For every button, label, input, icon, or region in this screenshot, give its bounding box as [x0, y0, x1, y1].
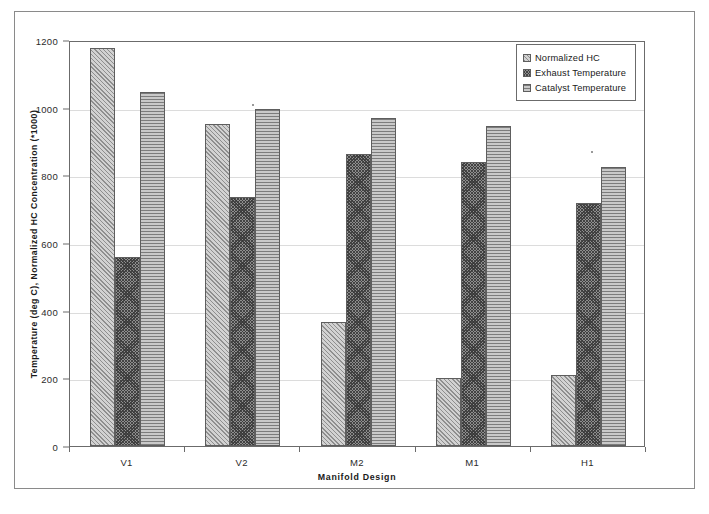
scan-artifact: [591, 151, 593, 153]
bar-v1-series-1: [90, 48, 115, 446]
x-axis-tick-label-v2: V2: [236, 457, 248, 468]
plot-area: [69, 41, 645, 447]
x-axis-tick-label-m1: M1: [465, 457, 479, 468]
bar-m1-series-2: [461, 162, 486, 446]
x-axis-tick-label-h1: H1: [581, 457, 594, 468]
bar-v1-series-3: [140, 92, 165, 446]
x-axis-tick-label-v1: V1: [120, 457, 132, 468]
x-axis-title: Manifold Design: [69, 472, 645, 482]
x-axis-tick-label-m2: M2: [350, 457, 364, 468]
legend-item-1[interactable]: Normalized HC: [523, 50, 626, 65]
bar-v1-series-2: [115, 257, 140, 446]
legend-item-3[interactable]: Catalyst Temperature: [523, 80, 626, 95]
bar-v2-series-1: [205, 124, 230, 446]
y-axis-tick-label: 200: [41, 374, 58, 385]
legend-item-label: Exhaust Temperature: [535, 68, 626, 78]
scan-artifact: [252, 104, 254, 106]
y-axis-ticks: 020040060080010001200: [0, 41, 69, 447]
bar-m1-series-3: [486, 126, 511, 446]
y-axis-tick-label: 1200: [36, 36, 58, 47]
x-axis-tick-mark: [530, 447, 531, 452]
y-axis-tick-label: 1000: [36, 103, 58, 114]
bar-h1-series-2: [576, 203, 601, 446]
y-axis-tick-label: 400: [41, 306, 58, 317]
x-axis-tick-mark: [69, 447, 70, 452]
bar-m2-series-1: [321, 322, 346, 446]
bar-v2-series-2: [230, 197, 255, 446]
x-axis-tick-mark: [645, 447, 646, 452]
bar-m2-series-3: [371, 118, 396, 446]
legend-swatch-icon: [523, 84, 531, 92]
bar-m1-series-1: [436, 378, 461, 446]
bar-m2-series-2: [346, 154, 371, 446]
x-axis-tick-mark: [415, 447, 416, 452]
x-axis-tick-mark: [184, 447, 185, 452]
bar-h1-series-1: [551, 375, 576, 446]
y-axis-tick-label: 600: [41, 239, 58, 250]
y-axis-tick-label: 800: [41, 171, 58, 182]
legend-item-label: Catalyst Temperature: [535, 83, 626, 93]
bar-h1-series-3: [601, 167, 626, 446]
legend-swatch-icon: [523, 69, 531, 77]
figure-canvas: Temperature (deg C), Normalized HC Conce…: [0, 0, 709, 514]
legend-item-label: Normalized HC: [535, 53, 600, 63]
chart-legend: Normalized HCExhaust TemperatureCatalyst…: [516, 44, 636, 101]
x-axis-tick-mark: [299, 447, 300, 452]
legend-swatch-icon: [523, 54, 531, 62]
legend-item-2[interactable]: Exhaust Temperature: [523, 65, 626, 80]
bar-v2-series-3: [255, 109, 280, 446]
y-axis-tick-label: 0: [52, 442, 58, 453]
